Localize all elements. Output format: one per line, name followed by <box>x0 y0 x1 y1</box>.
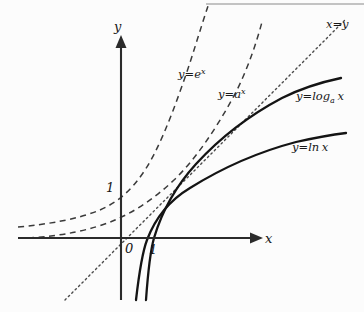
label-curve-exp-a-base: y=a <box>217 87 241 101</box>
y-tick-label-one: 1 <box>106 180 114 195</box>
label-curve-log-a-subscript: a <box>330 96 335 105</box>
x-axis-label: x <box>265 231 273 246</box>
label-curve-log-e-tail: x <box>322 140 329 154</box>
label-curve-log-e: y=lnx <box>291 140 329 154</box>
figure-container: x y 0 1 1 y=ex y=ax y=logax y=lnx x=y <box>0 0 364 312</box>
curve-log-a <box>146 78 341 300</box>
label-curve-exp-e-exponent: x <box>201 67 206 76</box>
label-curve-exp-a-exponent: x <box>241 87 246 96</box>
y-axis-label: y <box>113 19 122 34</box>
label-curve-exp-a: y=ax <box>217 87 246 101</box>
label-curve-log-a-tail: x <box>337 89 344 103</box>
y-axis-arrow-icon <box>116 35 127 48</box>
identity-line-x-equals-y <box>65 20 345 300</box>
label-curve-log-a-base: y=log <box>295 89 330 103</box>
x-axis-arrow-icon <box>250 233 263 244</box>
origin-label: 0 <box>125 241 133 256</box>
label-identity-line: x=y <box>326 17 349 31</box>
curve-exp-a <box>28 22 262 238</box>
label-curve-log-e-base: y=ln <box>291 140 319 154</box>
x-tick-label-one: 1 <box>149 242 157 257</box>
label-curve-log-a: y=logax <box>295 89 344 105</box>
math-diagram: x y 0 1 1 y=ex y=ax y=logax y=lnx x=y <box>0 0 364 312</box>
label-curve-exp-e-base: y=e <box>177 67 201 81</box>
label-curve-exp-e: y=ex <box>177 67 206 81</box>
curve-log-e <box>136 133 346 300</box>
